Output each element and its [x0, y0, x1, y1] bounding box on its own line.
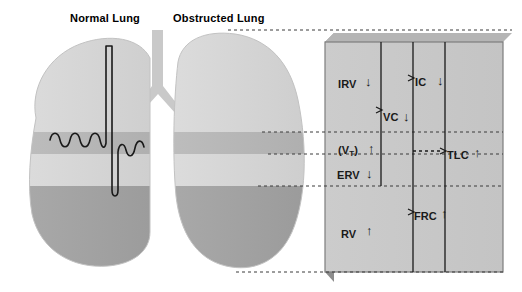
- label-ic: IC: [415, 76, 426, 88]
- label-vt-close: ): [354, 144, 358, 156]
- lung-volumes-figure: Normal Lung Obstructed Lung: [0, 0, 522, 292]
- obstructed-lung-shape: [170, 20, 315, 286]
- label-erv: ERV: [337, 169, 360, 181]
- figure-canvas: [0, 0, 522, 292]
- label-vc: VC: [383, 111, 398, 123]
- arrow-irv-down: ↓: [365, 75, 372, 88]
- label-rv: RV: [341, 228, 356, 240]
- label-tlc: TLC: [447, 149, 469, 161]
- arrow-tlc-up: ↑: [474, 146, 481, 159]
- arrow-vc-down: ↓: [403, 110, 410, 123]
- label-irv: IRV: [338, 78, 356, 90]
- arrow-frc-up: ↑: [441, 207, 448, 220]
- arrow-rv-up: ↑: [366, 224, 373, 237]
- arrow-vt-up: ↑: [368, 142, 375, 155]
- label-vt-open: (V: [338, 144, 349, 156]
- arrow-erv-down: ↓: [366, 167, 373, 180]
- label-frc: FRC: [414, 210, 437, 222]
- label-tidal-volume: (VT): [338, 144, 358, 158]
- arrow-ic-down: ↓: [437, 74, 444, 87]
- normal-lung-shape: [20, 20, 170, 286]
